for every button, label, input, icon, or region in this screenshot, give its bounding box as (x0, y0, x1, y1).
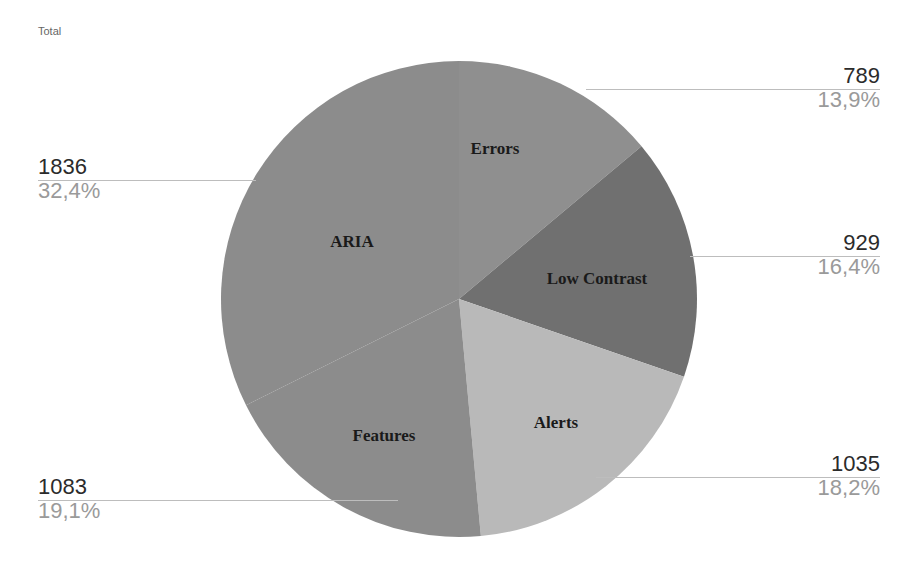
slice-label-aria: ARIA (330, 232, 374, 251)
callout-errors: 789 13,9% (818, 64, 880, 112)
callout-percent: 18,2% (818, 476, 880, 500)
callout-features: 1083 19,1% (38, 475, 100, 523)
callout-value: 1035 (818, 452, 880, 476)
callout-percent: 16,4% (818, 255, 880, 279)
callout-alerts: 1035 18,2% (818, 452, 880, 500)
slice-label-errors: Errors (471, 139, 520, 158)
callout-aria: 1836 32,4% (38, 155, 100, 203)
callout-percent: 19,1% (38, 499, 100, 523)
pie-chart: Errors Low Contrast Alerts Features ARIA (0, 0, 912, 565)
callout-value: 929 (818, 231, 880, 255)
callout-value: 789 (818, 64, 880, 88)
callout-percent: 32,4% (38, 179, 100, 203)
callout-percent: 13,9% (818, 88, 880, 112)
callout-low-contrast: 929 16,4% (818, 231, 880, 279)
pie-slices (221, 61, 697, 537)
slice-label-low-contrast: Low Contrast (547, 269, 648, 288)
callout-value: 1083 (38, 475, 100, 499)
callout-value: 1836 (38, 155, 100, 179)
slice-label-features: Features (353, 426, 416, 445)
slice-label-alerts: Alerts (534, 413, 579, 432)
